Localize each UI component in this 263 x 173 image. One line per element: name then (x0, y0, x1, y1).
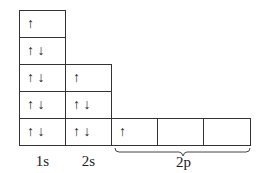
label-1s: 1s (19, 153, 66, 170)
label-2p: 2p (160, 154, 207, 171)
label-2s: 2s (65, 153, 112, 170)
brace-icon (0, 0, 263, 173)
